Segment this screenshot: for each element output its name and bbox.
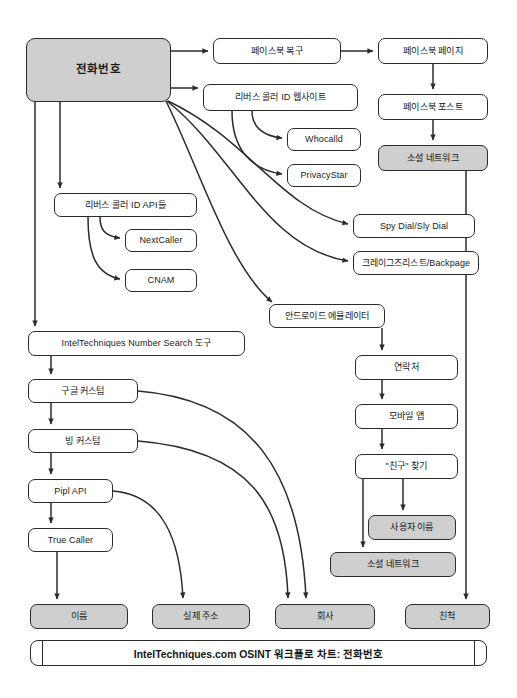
node-nextcaller[interactable]: NextCaller xyxy=(125,229,197,252)
node-facebook-post[interactable]: 페이스북 포스트 xyxy=(378,94,488,120)
node-phone[interactable]: 전화번호 xyxy=(26,38,171,102)
node-output-name[interactable]: 이름 xyxy=(30,604,128,629)
node-reverse-caller-id-apis[interactable]: 리버스 콜러 ID API들 xyxy=(54,193,197,217)
edge-bing-custom-to-company xyxy=(138,441,288,598)
node-privacystar[interactable]: PrivacyStar xyxy=(287,164,361,187)
edge-google-custom-to-company xyxy=(138,391,306,598)
banner-right-divider xyxy=(474,641,475,665)
node-output-relative[interactable]: 친척 xyxy=(405,604,490,629)
node-find-friends[interactable]: "친구" 찾기 xyxy=(355,454,458,479)
node-android-emulator[interactable]: 안드로이드 에뮬레이터 xyxy=(269,304,385,328)
node-social-network-bottom[interactable]: 소셜 네트워크 xyxy=(330,552,456,577)
node-true-caller[interactable]: True Caller xyxy=(28,528,113,552)
node-contacts[interactable]: 연락처 xyxy=(355,355,458,380)
edge-reverse-apis-to-nextcaller xyxy=(100,217,120,238)
node-reverse-caller-id-website[interactable]: 리버스 콜러 ID 웹사이트 xyxy=(203,84,358,111)
node-facebook-recovery[interactable]: 페이스북 복구 xyxy=(213,38,341,64)
edge-pipl-api-to-address xyxy=(113,491,183,598)
edge-reverse-site-to-whocalld xyxy=(252,111,282,138)
node-pipl-api[interactable]: Pipl API xyxy=(28,479,113,503)
node-output-company[interactable]: 회사 xyxy=(275,604,375,629)
node-whocalld[interactable]: Whocalld xyxy=(287,128,361,151)
node-craigslist-backpage[interactable]: 크레이그즈리스트/Backpage xyxy=(353,251,479,275)
osint-phone-workflow-chart: 전화번호 페이스북 복구 페이스북 페이지 페이스북 포스트 소셜 네트워크 리… xyxy=(0,0,517,698)
footer-caption-banner: IntelTechniques.com OSINT 워크플로 차트: 전화번호 xyxy=(30,640,487,666)
node-output-physical-address[interactable]: 실제 주소 xyxy=(152,604,250,629)
edge-reverse-apis-to-cnam xyxy=(88,217,120,279)
node-social-network-top[interactable]: 소셜 네트워크 xyxy=(378,145,488,171)
node-cnam[interactable]: CNAM xyxy=(125,269,197,292)
node-facebook-page[interactable]: 페이스북 페이지 xyxy=(378,38,488,64)
node-inteltechniques-number-search[interactable]: IntelTechniques Number Search 도구 xyxy=(28,331,245,356)
footer-caption-text: IntelTechniques.com OSINT 워크플로 차트: 전화번호 xyxy=(134,646,383,661)
node-user-name[interactable]: 사용자 이름 xyxy=(368,515,456,540)
node-bing-custom[interactable]: 빙 커스텀 xyxy=(28,429,138,453)
banner-left-divider xyxy=(42,641,43,665)
node-mobile-app[interactable]: 모바일 앱 xyxy=(355,404,458,429)
node-spy-dial-sly-dial[interactable]: Spy Dial/Sly Dial xyxy=(353,214,475,238)
node-google-custom[interactable]: 구글 커스텀 xyxy=(28,379,138,403)
